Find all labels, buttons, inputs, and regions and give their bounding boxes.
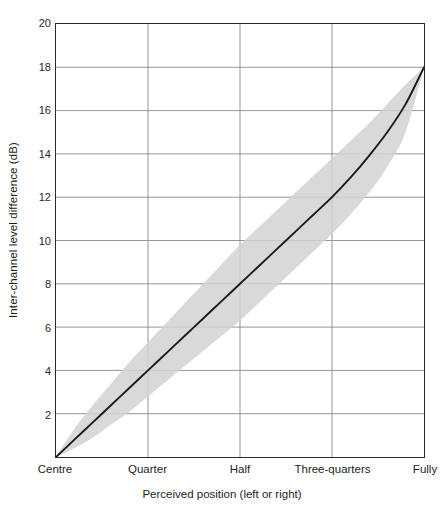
chart-figure: Inter-channel level difference (dB) 2468… bbox=[0, 0, 444, 511]
plot-area bbox=[55, 23, 425, 458]
y-tick-label: 18 bbox=[5, 61, 51, 72]
x-tick-label: Quarter bbox=[128, 462, 167, 476]
y-tick-label: 12 bbox=[5, 192, 51, 203]
y-tick-label: 8 bbox=[5, 279, 51, 290]
y-tick-label: 16 bbox=[5, 105, 51, 116]
y-tick-label: 10 bbox=[5, 235, 51, 246]
x-axis-title: Perceived position (left or right) bbox=[0, 488, 444, 500]
y-tick-label: 14 bbox=[5, 148, 51, 159]
x-tick-label: Fully bbox=[413, 462, 437, 476]
x-axis-tick-labels: CentreQuarterHalfThree-quartersFully bbox=[0, 462, 444, 484]
y-tick-label: 20 bbox=[5, 18, 51, 29]
x-tick-label: Three-quarters bbox=[294, 462, 370, 476]
x-tick-label: Half bbox=[230, 462, 250, 476]
x-tick-label: Centre bbox=[38, 462, 73, 476]
y-tick-label: 6 bbox=[5, 322, 51, 333]
chart-plot-svg bbox=[56, 24, 424, 457]
y-tick-label: 2 bbox=[5, 409, 51, 420]
y-tick-label: 4 bbox=[5, 366, 51, 377]
y-axis-tick-labels: 2468101214161820 bbox=[0, 0, 51, 511]
